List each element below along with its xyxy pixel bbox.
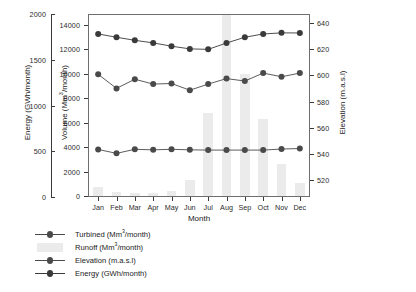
elevation-tick-label: 580 xyxy=(317,98,329,107)
energy-tick-mark xyxy=(51,106,55,107)
data-point xyxy=(150,81,156,87)
data-point xyxy=(169,80,175,86)
data-point xyxy=(114,150,120,156)
elevation-tick-mark xyxy=(310,180,314,181)
volume-tick-label: 10000 xyxy=(36,70,80,79)
elevation-tick-label: 540 xyxy=(317,150,329,159)
elevation-tick-mark xyxy=(310,102,314,103)
legend-line-dot-icon xyxy=(33,254,67,267)
data-point xyxy=(95,71,101,77)
data-point xyxy=(260,147,266,153)
data-point xyxy=(187,46,193,52)
data-point xyxy=(297,70,303,76)
data-point xyxy=(279,146,285,152)
volume-tick-label: 0 xyxy=(36,192,80,201)
legend-item[interactable]: Runoff (Mm3/month) xyxy=(33,241,263,254)
month-tick-mark xyxy=(153,197,154,201)
xaxis-title: Month xyxy=(143,214,255,223)
energy-tick-mark xyxy=(51,14,55,15)
data-point xyxy=(114,34,120,40)
elevation-tick-label: 600 xyxy=(317,71,329,80)
volume-tick-label: 14000 xyxy=(36,21,80,30)
energy-axis-title: Energy (GWh/month) xyxy=(23,48,32,158)
elevation-tick-label: 560 xyxy=(317,124,329,133)
data-point xyxy=(169,146,175,152)
data-point xyxy=(297,146,303,152)
elevation-tick-label: 520 xyxy=(317,176,329,185)
month-tick-mark xyxy=(263,197,264,201)
data-point xyxy=(224,40,230,46)
data-point xyxy=(132,76,138,82)
data-point xyxy=(205,81,211,87)
month-tick-mark xyxy=(282,197,283,201)
data-point xyxy=(150,40,156,46)
energy-tick-label: 2000 xyxy=(6,10,46,19)
plot-inner xyxy=(89,15,309,196)
elevation-tick-mark xyxy=(310,75,314,76)
data-point xyxy=(205,147,211,153)
data-point xyxy=(187,147,193,153)
data-point xyxy=(114,85,120,91)
volume-tick-label: 8000 xyxy=(36,94,80,103)
data-point xyxy=(279,74,285,80)
data-point xyxy=(95,31,101,37)
energy-tick-mark xyxy=(51,60,55,61)
data-point xyxy=(95,146,101,152)
volume-axis-title: Volume (Mm3/month) xyxy=(60,48,69,158)
month-tick-mark xyxy=(98,197,99,201)
elevation-tick-mark xyxy=(310,128,314,129)
legend-label: Energy (GWh/month) xyxy=(75,269,147,278)
data-point xyxy=(279,30,285,36)
legend-label: Runoff (Mm3/month) xyxy=(75,243,143,252)
data-point xyxy=(169,43,175,49)
month-tick-mark xyxy=(172,197,173,201)
month-tick-mark xyxy=(190,197,191,201)
elevation-tick-mark xyxy=(310,23,314,24)
series-polyline xyxy=(98,73,300,90)
data-point xyxy=(187,87,193,93)
data-point xyxy=(132,146,138,152)
month-tick-mark xyxy=(135,197,136,201)
data-point xyxy=(260,31,266,37)
series-polyline xyxy=(98,149,300,154)
legend-line-dot-icon xyxy=(33,228,67,241)
month-tick-mark xyxy=(227,197,228,201)
month-tick-mark xyxy=(300,197,301,201)
chart-legend: Turbined (Mm3/month)Runoff (Mm3/month)El… xyxy=(33,228,263,280)
data-point xyxy=(242,147,248,153)
legend-label: Elevation (m.a.s.l) xyxy=(75,256,136,265)
legend-swatch-icon xyxy=(33,241,67,254)
month-tick-mark xyxy=(245,197,246,201)
data-point xyxy=(260,70,266,76)
series-turbined xyxy=(95,70,303,93)
elevation-tick-mark xyxy=(310,154,314,155)
data-point xyxy=(242,78,248,84)
legend-item[interactable]: Energy (GWh/month) xyxy=(33,267,263,280)
month-tick-label: Dec xyxy=(287,203,313,212)
legend-dot xyxy=(47,231,53,237)
legend-item[interactable]: Elevation (m.a.s.l) xyxy=(33,254,263,267)
legend-dot xyxy=(47,270,53,276)
data-point xyxy=(132,37,138,43)
series-elevation xyxy=(95,146,303,157)
legend-item[interactable]: Turbined (Mm3/month) xyxy=(33,228,263,241)
chart-figure: 0500100015002000 Energy (GWh/month) 0200… xyxy=(0,0,416,292)
plot-area xyxy=(88,14,310,197)
data-point xyxy=(205,46,211,52)
volume-tick-label: 6000 xyxy=(36,119,80,128)
legend-color-swatch xyxy=(37,243,63,252)
legend-line-dot-icon xyxy=(33,267,67,280)
data-point xyxy=(224,76,230,82)
legend-dot xyxy=(47,257,53,263)
volume-tick-label: 12000 xyxy=(36,45,80,54)
data-point xyxy=(224,147,230,153)
legend-label: Turbined (Mm3/month) xyxy=(75,230,151,239)
elevation-tick-label: 620 xyxy=(317,45,329,54)
elevation-tick-label: 640 xyxy=(317,19,329,28)
data-point xyxy=(297,30,303,36)
month-tick-mark xyxy=(208,197,209,201)
month-tick-mark xyxy=(117,197,118,201)
series-lines xyxy=(89,15,309,196)
elevation-tick-mark xyxy=(310,49,314,50)
series-polyline xyxy=(98,33,300,50)
